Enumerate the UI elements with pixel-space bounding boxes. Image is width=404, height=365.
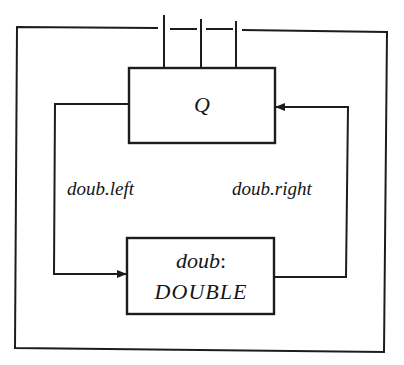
top-ports bbox=[164, 16, 236, 68]
node-doub-type: DOUBLE bbox=[154, 279, 248, 304]
node-doub: doub: DOUBLE bbox=[127, 238, 274, 314]
node-doub-separator: : bbox=[220, 248, 226, 273]
edge-left-label: doub.left bbox=[67, 178, 135, 199]
node-q-label: Q bbox=[194, 92, 210, 117]
node-doub-name-line: doub: bbox=[176, 248, 226, 273]
node-q: Q bbox=[129, 68, 275, 143]
edge-doub-left: doub.left bbox=[54, 104, 135, 274]
node-doub-name: doub bbox=[176, 248, 220, 273]
edge-right-label: doub.right bbox=[232, 178, 312, 199]
diagram-canvas: Q doub: DOUBLE doub.left doub.right bbox=[0, 0, 404, 365]
